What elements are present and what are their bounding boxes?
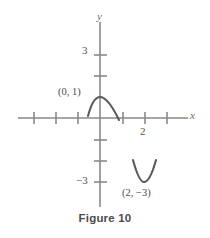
- x-axis-label: x: [190, 110, 195, 121]
- y-axis-label: y: [97, 11, 102, 22]
- y-tick-label-3: 3: [82, 45, 88, 56]
- upward-parabola-curve: [133, 160, 156, 182]
- coordinate-plane: y x 3 −3 2 (0, 1) (2, −3): [0, 0, 210, 210]
- figure-caption: Figure 10: [0, 212, 210, 224]
- y-tick-label-negative-3: −3: [76, 175, 88, 186]
- vertex-label-two-negative-three: (2, −3): [122, 188, 151, 199]
- x-tick-label-2: 2: [140, 126, 146, 137]
- vertex-label-zero-one: (0, 1): [58, 87, 81, 98]
- downward-parabola-curve: [88, 97, 119, 120]
- coordinate-plane-svg: [0, 0, 210, 210]
- figure-container: y x 3 −3 2 (0, 1) (2, −3) Figure 10: [0, 0, 210, 238]
